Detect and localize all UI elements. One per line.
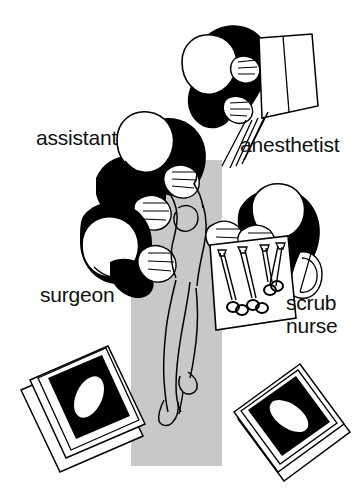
label-scrub-nurse-line1: scrub <box>286 291 336 314</box>
label-assistant: assistant <box>36 126 117 149</box>
operating-room-figure: assistant anesthetist surgeon scrubnurse <box>0 0 363 500</box>
label-surgeon: surgeon <box>40 283 115 306</box>
instrument-tray <box>210 236 296 330</box>
scene-illustration <box>0 0 363 500</box>
label-scrub-nurse: scrubnurse <box>286 291 338 337</box>
label-scrub-nurse-line2: nurse <box>286 314 338 337</box>
anesthetist-head <box>182 35 237 94</box>
assistant-head <box>117 112 174 172</box>
label-anesthetist: anesthetist <box>240 133 339 156</box>
